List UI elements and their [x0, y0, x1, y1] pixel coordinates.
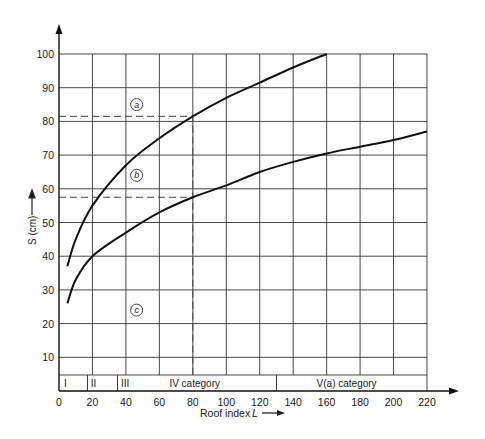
y-axis-title: S (cm) [27, 216, 38, 245]
x-axis-arrow-icon [449, 388, 459, 395]
chart: IIIIIIIV categoryV(a) category 020406080… [0, 0, 485, 439]
region-label-a: a [134, 100, 139, 110]
curve-b [67, 132, 427, 304]
region-label-c: c [134, 305, 139, 315]
y-axis-title-arrow [29, 190, 35, 215]
category-label-cat_I: I [64, 378, 67, 389]
x-tick-label: 60 [154, 396, 166, 408]
y-axis-label: S (cm) [27, 216, 38, 245]
curve-a [67, 54, 326, 266]
x-tick-label: 220 [418, 396, 436, 408]
x-tick-label: 160 [318, 396, 336, 408]
x-tick-label: 0 [56, 396, 62, 408]
category-label-cat_V: V(a) category [317, 378, 377, 389]
x-tick-label: 200 [385, 396, 403, 408]
y-tick-label: 40 [42, 250, 54, 262]
axes [56, 24, 460, 395]
x-tick-label: 180 [351, 396, 369, 408]
region-label-b: b [134, 170, 139, 180]
grid-lines [59, 54, 427, 391]
curves [67, 54, 427, 303]
y-tick-label: 20 [42, 318, 54, 330]
x-tick-label: 20 [87, 396, 99, 408]
y-tick-label: 100 [36, 48, 54, 60]
x-axis-title: Roof index L [200, 407, 285, 419]
y-tick-label: 70 [42, 149, 54, 161]
x-axis-label: Roof index [200, 407, 251, 419]
y-tick-label: 90 [42, 82, 54, 94]
y-tick-label: 50 [42, 217, 54, 229]
category-strip: IIIIIIIV categoryV(a) category [64, 375, 377, 391]
tick-labels: 0204060801001201401601802002201020304050… [36, 48, 435, 408]
x-tick-label: 80 [187, 396, 199, 408]
x-tick-label: 140 [284, 396, 302, 408]
y-axis-arrow-icon [56, 24, 63, 34]
x-tick-label: 40 [120, 396, 132, 408]
category-label-cat_IV: IV category [169, 378, 220, 389]
y-tick-label: 60 [42, 183, 54, 195]
category-label-cat_III: III [121, 378, 129, 389]
category-label-cat_II: II [91, 378, 97, 389]
x-axis-variable: L [252, 407, 258, 419]
y-tick-label: 80 [42, 115, 54, 127]
y-tick-label: 10 [42, 351, 54, 363]
region-labels: abc [131, 99, 143, 317]
y-tick-label: 30 [42, 284, 54, 296]
